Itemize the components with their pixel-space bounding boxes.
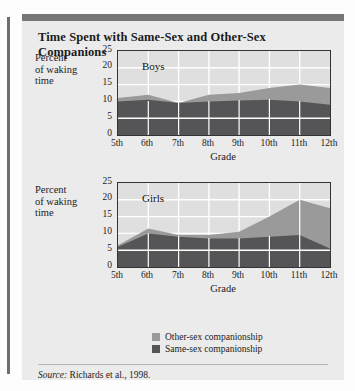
- y-tick-15-boys: 15: [92, 77, 112, 87]
- y-tick-0-girls: 0: [92, 260, 112, 270]
- y-axis-label-line1-girls: Percent: [35, 184, 67, 195]
- y-tick-15-girls: 15: [92, 209, 112, 219]
- legend-label-other-sex: Other-sex companionship: [165, 332, 263, 342]
- area-same-sex-boys: [118, 100, 330, 135]
- legend-item-same-sex: Same-sex companionship: [152, 344, 263, 354]
- y-tick-20-boys: 20: [92, 60, 112, 70]
- source-line: Source: Richards et al., 1998.: [38, 370, 150, 380]
- series-title-boys: Boys: [142, 60, 165, 72]
- y-tick-10-girls: 10: [92, 226, 112, 236]
- y-axis-label-line1: Percent: [35, 52, 67, 63]
- x-tick-6th-boys: 6th: [134, 138, 160, 148]
- y-axis-label-line2-girls: of waking: [35, 196, 77, 207]
- x-tick-7th-boys: 7th: [165, 138, 191, 148]
- x-tick-11th-girls: 11th: [286, 270, 312, 280]
- legend-swatch-same-sex: [152, 345, 160, 353]
- legend-label-same-sex: Same-sex companionship: [165, 344, 262, 354]
- left-margin-rule: [7, 17, 10, 374]
- series-title-girls: Girls: [142, 192, 164, 204]
- y-tick-20-girls: 20: [92, 192, 112, 202]
- x-tick-12th-girls: 12th: [316, 270, 342, 280]
- x-axis-title-girls: Grade: [117, 283, 329, 294]
- x-tick-11th-boys: 11th: [286, 138, 312, 148]
- x-tick-9th-girls: 9th: [225, 270, 251, 280]
- y-axis-label-line2: of waking: [35, 64, 77, 75]
- y-axis-label-line3: time: [35, 75, 54, 86]
- y-tick-5-boys: 5: [92, 111, 112, 121]
- x-tick-7th-girls: 7th: [165, 270, 191, 280]
- legend-item-other-sex: Other-sex companionship: [152, 332, 263, 342]
- x-tick-8th-girls: 8th: [195, 270, 221, 280]
- x-tick-5th-boys: 5th: [104, 138, 130, 148]
- y-tick-25-girls: 25: [92, 176, 112, 186]
- y-axis-label-girls: Percent of waking time: [35, 184, 97, 219]
- legend-swatch-other-sex: [152, 333, 160, 341]
- y-tick-10-boys: 10: [92, 94, 112, 104]
- x-tick-9th-boys: 9th: [225, 138, 251, 148]
- x-tick-5th-girls: 5th: [104, 270, 130, 280]
- chart-legend: Other-sex companionship Same-sex compani…: [152, 332, 263, 356]
- x-tick-8th-boys: 8th: [195, 138, 221, 148]
- source-label: Source:: [38, 370, 67, 380]
- y-tick-0-boys: 0: [92, 128, 112, 138]
- x-tick-10th-girls: 10th: [256, 270, 282, 280]
- x-tick-12th-boys: 12th: [316, 138, 342, 148]
- figure-container: Time Spent with Same-Sex and Other-Sex C…: [0, 0, 355, 391]
- source-citation: Richards et al., 1998.: [70, 370, 151, 380]
- figure-panel: Time Spent with Same-Sex and Other-Sex C…: [22, 14, 344, 380]
- x-axis-title-boys: Grade: [117, 151, 329, 162]
- y-tick-5-girls: 5: [92, 243, 112, 253]
- source-divider: [38, 364, 328, 365]
- x-tick-10th-boys: 10th: [256, 138, 282, 148]
- y-tick-25-boys: 25: [92, 44, 112, 54]
- y-axis-label-boys: Percent of waking time: [35, 52, 97, 87]
- panel-top-bar: [22, 14, 344, 21]
- y-axis-label-line3-girls: time: [35, 207, 54, 218]
- x-tick-6th-girls: 6th: [134, 270, 160, 280]
